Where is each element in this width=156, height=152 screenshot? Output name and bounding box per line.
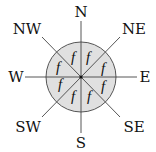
label-nw: NW	[13, 20, 42, 38]
label-n: N	[74, 3, 87, 21]
label-sw: SW	[15, 118, 41, 136]
compass-diagram: N NE E SE S SW W NW f f f f f f f f	[0, 0, 156, 152]
label-se: SE	[123, 118, 144, 136]
compass-svg: N NE E SE S SW W NW f f f f f f f f	[0, 0, 156, 152]
label-w: W	[8, 68, 24, 86]
label-ne: NE	[122, 20, 146, 38]
center-dot	[79, 75, 82, 78]
label-e: E	[140, 68, 151, 86]
label-s: S	[76, 134, 86, 152]
